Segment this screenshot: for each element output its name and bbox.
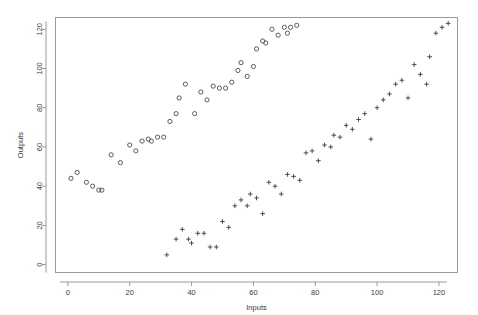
y-axis: 020406080100120 [35, 21, 46, 272]
scatter-plot-figure: 020406080100120Inputs020406080100120Outp… [0, 0, 478, 315]
series-2-plus [165, 21, 451, 257]
data-point-circle [254, 47, 258, 51]
data-point-circle [230, 80, 234, 84]
data-point-circle [285, 31, 289, 35]
data-point-circle [193, 112, 197, 116]
data-point-circle [162, 135, 166, 139]
y-tick-label: 60 [35, 143, 44, 151]
plot-frame [56, 18, 458, 273]
data-point-circle [109, 153, 113, 157]
x-axis-title: Inputs [246, 303, 267, 312]
data-point-circle [276, 33, 280, 37]
data-point-circle [245, 74, 249, 78]
data-point-circle [100, 188, 104, 192]
y-tick-label: 20 [35, 221, 44, 229]
data-point-circle [239, 61, 243, 65]
y-axis-title: Outputs [16, 132, 25, 159]
data-point-circle [134, 149, 138, 153]
series-1-circle [69, 23, 299, 192]
data-point-circle [217, 86, 221, 90]
data-point-circle [155, 135, 159, 139]
data-point-circle [174, 112, 178, 116]
data-point-circle [223, 86, 227, 90]
y-tick-label: 80 [35, 104, 44, 112]
data-point-circle [236, 68, 240, 72]
data-point-circle [168, 119, 172, 123]
data-point-circle [140, 139, 144, 143]
data-point-circle [211, 84, 215, 88]
data-point-circle [177, 96, 181, 100]
data-point-circle [183, 82, 187, 86]
x-tick-label: 100 [371, 288, 384, 297]
data-point-circle [69, 176, 73, 180]
data-point-circle [251, 64, 255, 68]
y-tick-label: 40 [35, 182, 44, 190]
data-point-circle [199, 90, 203, 94]
x-tick-label: 40 [187, 288, 195, 297]
data-point-circle [282, 25, 286, 29]
x-tick-label: 60 [249, 288, 257, 297]
data-point-circle [84, 180, 88, 184]
data-point-circle [288, 25, 292, 29]
x-tick-label: 20 [126, 288, 134, 297]
data-point-circle [205, 98, 209, 102]
x-tick-label: 0 [66, 288, 70, 297]
data-point-circle [75, 170, 79, 174]
data-point-circle [295, 23, 299, 27]
y-tick-label: 0 [35, 263, 44, 267]
data-point-circle [91, 184, 95, 188]
x-tick-label: 80 [311, 288, 319, 297]
data-point-circle [128, 143, 132, 147]
x-tick-label: 120 [433, 288, 446, 297]
data-point-circle [118, 161, 122, 165]
x-axis: 020406080100120 [60, 282, 447, 297]
data-point-circle [270, 27, 274, 31]
y-tick-label: 120 [35, 23, 44, 36]
plot-canvas: 020406080100120Inputs020406080100120Outp… [0, 0, 478, 315]
y-tick-label: 100 [35, 62, 44, 75]
